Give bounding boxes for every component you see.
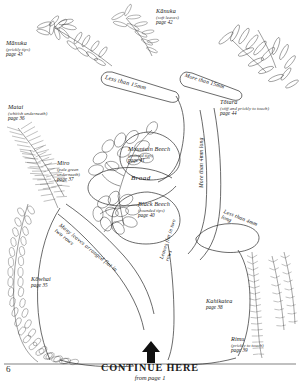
species-name: Mānuka xyxy=(6,40,30,47)
species-name: Tōtara xyxy=(220,99,272,106)
continue-here-label: CONTINUE HERE xyxy=(0,362,300,373)
species-name: Matai xyxy=(8,104,54,111)
species-label-mountain-beech[interactable]: Mountain Beech (pointed tips) page 41 xyxy=(128,146,170,164)
branch-label-broad[interactable]: Broad xyxy=(131,174,151,182)
species-label-kahikatea[interactable]: Kahikatea page 38 xyxy=(206,298,232,311)
species-page: page 43 xyxy=(6,52,30,58)
species-label-manuka[interactable]: Mānuka (prickly tips) page 43 xyxy=(6,40,30,58)
species-label-totara[interactable]: Tōtara (stiff and prickly to touch) page… xyxy=(220,99,272,117)
species-page: page 39 xyxy=(231,348,264,354)
black-beech-illustration xyxy=(92,189,141,237)
diagram-artwork xyxy=(0,0,300,384)
branch-label-more-than-4mm[interactable]: More than 4mm long xyxy=(198,134,204,188)
species-name: Mountain Beech xyxy=(128,146,170,153)
species-label-kanuka[interactable]: Kānuka (soft leaves) page 42 xyxy=(156,8,179,26)
page-folio-number: 6 xyxy=(6,364,11,374)
rimu-illustration xyxy=(268,252,297,330)
species-name: Black Beech xyxy=(138,201,170,208)
species-page: page 42 xyxy=(156,20,179,26)
continue-from-label: from page 1 xyxy=(0,374,300,381)
species-page: page 37 xyxy=(57,177,101,183)
species-label-black-beech[interactable]: Black Beech (rounded tips) page 40 xyxy=(138,201,170,219)
species-label-rimu[interactable]: Rimu (prickly to touch) page 39 xyxy=(231,336,264,354)
continue-here-block[interactable]: CONTINUE HERE from page 1 xyxy=(0,362,300,381)
species-page: page 38 xyxy=(206,305,232,311)
species-name: Rimu xyxy=(231,336,264,343)
path-many-leaves-two-rows xyxy=(66,204,154,314)
species-page: page 36 xyxy=(8,116,54,122)
key-diagram-page: Less than 15mm More than 15mm Broad More… xyxy=(0,0,300,384)
totara-illustration xyxy=(218,24,300,89)
manuka-illustration xyxy=(36,15,112,67)
up-arrow-icon xyxy=(142,341,160,363)
species-page: page 35 xyxy=(31,283,51,289)
species-label-matai[interactable]: Matai (whitish underneath) page 36 xyxy=(8,104,54,122)
species-name: Miro xyxy=(57,160,101,167)
species-label-kowhai[interactable]: Kōwhai page 35 xyxy=(31,276,51,289)
species-name: Kānuka xyxy=(156,8,179,15)
species-page: page 41 xyxy=(128,158,170,164)
species-page: page 44 xyxy=(220,111,272,117)
kanuka-illustration xyxy=(111,4,159,56)
species-label-miro[interactable]: Miro (pale green underneath) page 37 xyxy=(57,160,101,183)
species-page: page 40 xyxy=(138,213,170,219)
